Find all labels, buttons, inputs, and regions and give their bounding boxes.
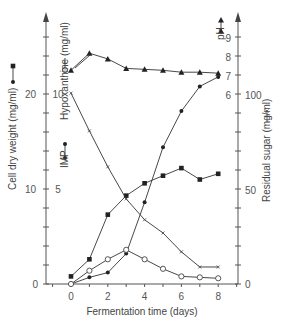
x-axis-label: Fermentation time (days): [86, 306, 197, 317]
circle-marker-icon: [179, 274, 184, 279]
circle-marker-icon: [142, 257, 147, 262]
x-tick-label: 2: [105, 291, 111, 302]
x-tick-label: 8: [215, 291, 221, 302]
square-marker-icon: [142, 181, 147, 186]
arrow-up-icon: [43, 12, 49, 22]
triangle-marker-icon: [218, 17, 224, 23]
x-marker-icon: [88, 129, 91, 132]
circle-marker-icon: [105, 257, 110, 262]
square-marker-icon: [161, 173, 166, 178]
x-tick-label: 4: [142, 291, 148, 302]
right-outer-tick-label: 50: [245, 185, 257, 196]
arrow-up-icon: [235, 12, 241, 22]
ph-tick-label: 7: [225, 71, 231, 82]
square-marker-icon: [216, 172, 221, 177]
circle-marker-icon: [68, 281, 73, 286]
square-marker-icon: [179, 166, 184, 171]
series-ph: [68, 50, 221, 75]
square-marker-icon: [69, 274, 74, 279]
right-outer-tick-label: 0: [245, 279, 251, 290]
square-marker-icon: [87, 257, 92, 262]
dot-marker-icon: [11, 80, 15, 84]
circle-marker-icon: [197, 275, 202, 280]
imp-axis-label: IMP: [59, 150, 70, 168]
circle-marker-icon: [87, 268, 92, 273]
square-marker-icon: [198, 177, 203, 182]
dot-marker-icon: [198, 84, 202, 88]
left-outer-tick-label: 10: [25, 184, 37, 195]
hypoxanthine-axis-label: Hypoxanthine (mg/ml): [59, 22, 70, 120]
left-inner-tick-label: 5: [55, 184, 61, 195]
ph-axis-label: pH: [215, 27, 226, 40]
x-tick-label: 6: [179, 291, 185, 302]
x-marker-icon: [180, 250, 183, 253]
square-marker-icon: [106, 212, 111, 217]
left-outer-axis-label: Cell dry weight (mg/ml): [7, 88, 18, 190]
dot-marker-icon: [87, 275, 91, 279]
x-tick-label: 0: [68, 291, 74, 302]
right-outer-axis-label: Residual sugar (mg/ml): [261, 99, 272, 202]
right-outer-tick-label: 100: [245, 90, 262, 101]
ph-tick-label: 8: [225, 52, 231, 63]
ph-tick-label: 9: [225, 33, 231, 44]
dot-marker-icon: [161, 145, 165, 149]
circle-marker-icon: [160, 266, 165, 271]
series-residual-sugar-mg-ml-: [70, 92, 220, 269]
triangle-marker-icon: [86, 50, 92, 56]
series-hypoxanthine-mg-ml-: [68, 247, 220, 286]
square-marker-icon: [11, 64, 16, 69]
dot-marker-icon: [143, 200, 147, 204]
fermentation-chart: 02468010205100501006789 Fermentation tim…: [0, 0, 285, 333]
x-marker-icon: [143, 218, 146, 221]
circle-marker-icon: [216, 276, 221, 281]
dot-marker-icon: [106, 271, 110, 275]
dot-marker-icon: [63, 142, 67, 146]
dot-marker-icon: [179, 109, 183, 113]
left-outer-tick-label: 20: [25, 89, 37, 100]
x-marker-icon: [106, 165, 109, 168]
x-marker-icon: [162, 231, 165, 234]
circle-marker-icon: [124, 247, 129, 252]
ph-tick-label: 6: [225, 90, 231, 101]
left-outer-tick-label: 0: [32, 279, 38, 290]
